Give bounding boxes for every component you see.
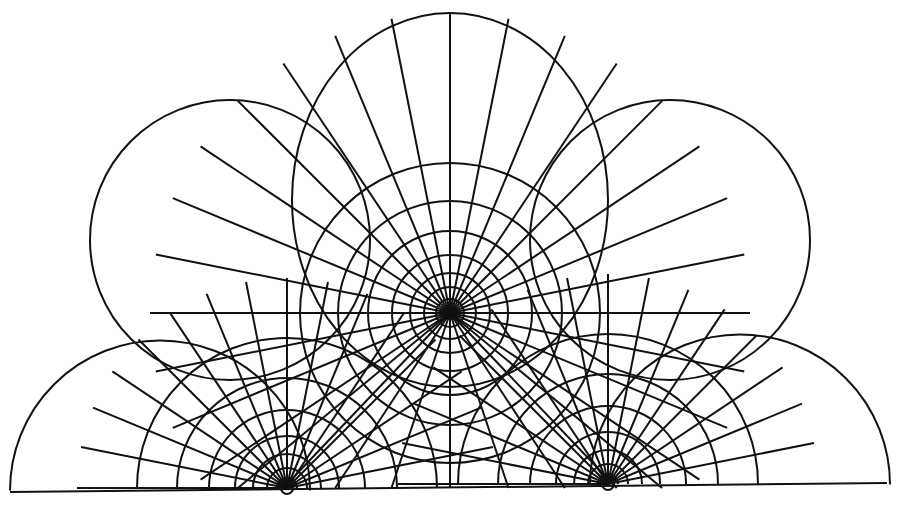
field-line-diagram bbox=[0, 0, 900, 507]
ray-center-18 bbox=[173, 198, 450, 313]
ray-center-22 bbox=[335, 36, 450, 313]
lobe-lower-left bbox=[10, 341, 310, 491]
ray-center-28 bbox=[450, 101, 662, 313]
equipotential-circles bbox=[137, 163, 758, 488]
ray-center-14 bbox=[173, 313, 450, 428]
ray-center-20 bbox=[238, 101, 450, 313]
field-rays bbox=[77, 13, 814, 494]
ray-center-2 bbox=[450, 313, 727, 428]
ray-center-26 bbox=[450, 36, 565, 313]
diagram-svg bbox=[0, 0, 900, 507]
